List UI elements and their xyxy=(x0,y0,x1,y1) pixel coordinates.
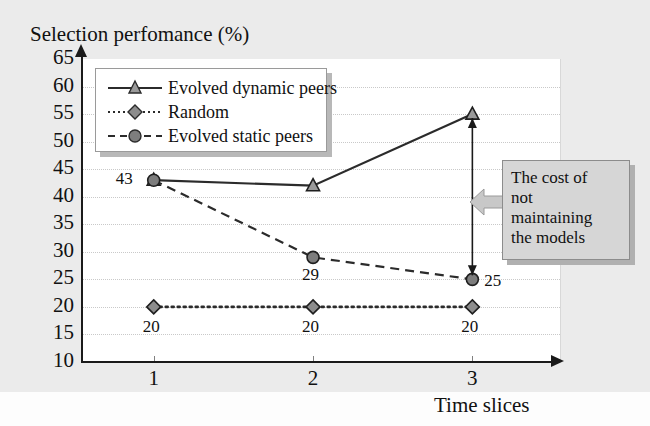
data-point-marker-triangle xyxy=(466,107,479,119)
data-point-label: 20 xyxy=(461,317,478,337)
legend-item[interactable]: Random xyxy=(106,100,326,124)
callout-line: the models xyxy=(511,228,621,248)
cost-callout-box: The cost of not maintaining the models xyxy=(502,160,630,260)
data-point-marker-diamond xyxy=(306,300,320,314)
callout-line: maintaining xyxy=(511,208,621,228)
callout-line: The cost of xyxy=(511,168,621,188)
callout-line: not xyxy=(511,188,621,208)
data-point-marker-diamond xyxy=(147,300,161,314)
data-point-marker-circle xyxy=(307,251,319,263)
data-point-label: 25 xyxy=(484,271,501,291)
legend-label: Evolved dynamic peers xyxy=(168,78,337,99)
legend-box: Evolved dynamic peers Random Evolved sta… xyxy=(95,68,327,152)
legend-key-diamond-icon xyxy=(106,102,164,122)
legend-key-circle-icon xyxy=(106,126,164,146)
data-point-label: 20 xyxy=(302,317,319,337)
data-point-label: 43 xyxy=(116,169,133,189)
legend-label: Evolved static peers xyxy=(168,126,313,147)
legend-label: Random xyxy=(168,102,229,123)
data-point-marker-diamond xyxy=(465,300,479,314)
legend-key-triangle-icon xyxy=(106,78,164,98)
data-point-label: 29 xyxy=(302,265,319,285)
data-point-label: 20 xyxy=(143,317,160,337)
chart-figure: Selection perfomance (%) Time slices 656… xyxy=(0,0,650,426)
legend-item[interactable]: Evolved static peers xyxy=(106,124,326,148)
legend-item[interactable]: Evolved dynamic peers xyxy=(106,76,326,100)
data-point-marker-circle xyxy=(148,174,160,186)
callout-pointer-arrow-icon xyxy=(470,185,506,219)
